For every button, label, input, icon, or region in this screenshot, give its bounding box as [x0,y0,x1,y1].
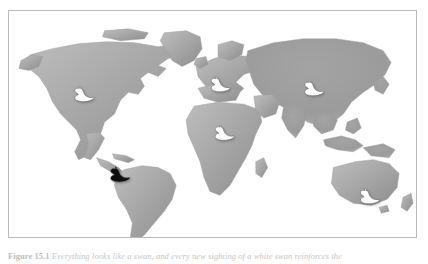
figure-caption: Figure 15.1 Everything looks like a swan… [8,251,422,262]
figure-block: Figure 15.1 Everything looks like a swan… [0,0,428,264]
figure-caption-text: Everything looks like a swan, and every … [52,252,342,261]
figure-caption-label: Figure 15.1 [8,252,50,261]
map-figure-frame [8,10,417,238]
world-map [9,11,416,237]
